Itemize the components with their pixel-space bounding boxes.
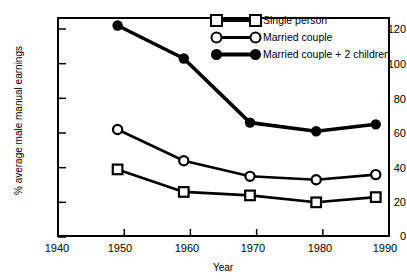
legend-item: Married couple (209, 29, 390, 46)
y-tick-label: 80 (376, 94, 406, 105)
x-tick-label: 1970 (231, 243, 275, 254)
x-tick-label: 1950 (98, 243, 142, 254)
legend-marker-filled-circle (209, 46, 263, 63)
x-axis-title: Year (183, 262, 263, 273)
y-tick-label: 20 (376, 197, 406, 208)
legend-marker-open-square (209, 12, 263, 29)
x-tick-label: 1980 (298, 243, 342, 254)
legend-marker-open-circle (209, 29, 263, 46)
legend-label: Married couple (263, 32, 332, 43)
x-tick-label: 1940 (35, 243, 79, 254)
legend: Single person Married couple Married c (209, 12, 390, 64)
legend-item: Single person (209, 12, 390, 29)
y-tick-label: 60 (376, 128, 406, 139)
x-tick-label: 1960 (165, 243, 209, 254)
legend-label: Single person (263, 15, 327, 26)
y-tick-label: 40 (376, 163, 406, 174)
y-tick-label: 0 (376, 231, 406, 242)
legend-item: Married couple + 2 children (209, 46, 390, 63)
y-axis-title: % average male manual earnings (13, 41, 24, 201)
x-tick-label: 1990 (363, 243, 407, 254)
legend-label: Married couple + 2 children (263, 49, 390, 60)
